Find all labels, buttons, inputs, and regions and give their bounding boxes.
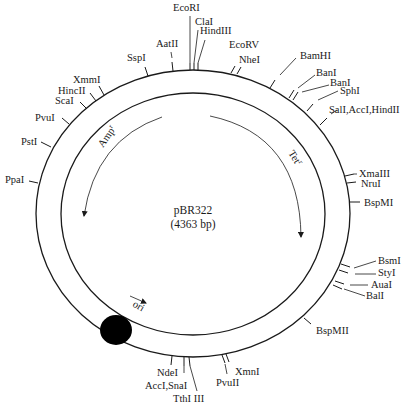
restriction-site: StyI bbox=[339, 267, 396, 278]
site-tick bbox=[41, 142, 51, 147]
restriction-sites: EcoRIClaIHindIIIAatIISspIEcoRVNheIBamHIB… bbox=[5, 2, 401, 404]
site-tick bbox=[293, 92, 298, 100]
restriction-site: PpaI bbox=[5, 174, 38, 185]
site-label: PpaI bbox=[5, 174, 25, 185]
gene-ori: ori bbox=[130, 296, 147, 314]
restriction-site: EcoRI bbox=[173, 2, 200, 70]
site-label: PvuII bbox=[216, 377, 240, 388]
site-label: NheI bbox=[239, 54, 260, 65]
site-tick bbox=[90, 93, 96, 101]
site-tick bbox=[222, 355, 225, 363]
site-tick bbox=[189, 357, 190, 366]
site-tick bbox=[231, 66, 235, 73]
site-label: ScaI bbox=[55, 95, 74, 106]
site-tick bbox=[304, 318, 311, 324]
site-tick bbox=[339, 270, 348, 273]
site-tick bbox=[347, 182, 356, 183]
site-tick bbox=[172, 62, 173, 71]
site-leader-line bbox=[318, 91, 338, 100]
restriction-site: XmnI bbox=[226, 354, 260, 377]
site-label: NruI bbox=[361, 178, 381, 189]
site-label: HindIII bbox=[200, 25, 232, 36]
gene-label: ori bbox=[131, 298, 147, 313]
gene-label: Ampr bbox=[95, 123, 119, 150]
site-leader-line bbox=[298, 75, 315, 88]
site-label: EcoRI bbox=[173, 2, 200, 13]
site-leader-line bbox=[354, 261, 376, 268]
restriction-site: NruI bbox=[347, 178, 381, 189]
site-leader-line bbox=[280, 58, 296, 75]
site-label: NdeI bbox=[157, 367, 178, 378]
site-label: SspI bbox=[127, 52, 146, 63]
site-label: XmmI bbox=[73, 74, 101, 85]
site-tick bbox=[335, 281, 344, 284]
plasmid-size: (4363 bp) bbox=[170, 218, 215, 231]
site-tick bbox=[341, 264, 350, 267]
site-tick bbox=[289, 90, 294, 98]
restriction-site: SspI bbox=[127, 52, 148, 76]
site-label: SphI bbox=[340, 85, 360, 96]
gene-label: Tetr bbox=[286, 148, 305, 168]
restriction-site: AuaI bbox=[335, 279, 392, 290]
restriction-site: ScaI bbox=[55, 95, 87, 109]
site-label: EcoRV bbox=[229, 39, 259, 50]
restriction-site: PstI bbox=[21, 136, 51, 147]
restriction-site: SalI,AccI,HindII bbox=[320, 104, 400, 125]
site-tick bbox=[307, 104, 313, 111]
ori-region-marker bbox=[100, 315, 132, 345]
site-label: SalI,AccI,HindII bbox=[329, 104, 400, 115]
site-tick bbox=[320, 118, 327, 125]
restriction-site: HindIII bbox=[198, 25, 232, 70]
site-tick bbox=[99, 86, 104, 95]
site-leader-line bbox=[194, 30, 198, 63]
site-leader-line bbox=[302, 85, 329, 92]
site-label: StyI bbox=[378, 267, 396, 278]
site-tick bbox=[145, 67, 148, 76]
site-label: TthI III bbox=[173, 393, 205, 404]
site-tick bbox=[80, 102, 87, 109]
gene-arrow bbox=[210, 116, 301, 237]
restriction-site: PvuI bbox=[35, 112, 69, 124]
restriction-site: BspMI bbox=[350, 197, 394, 208]
restriction-site: NheI bbox=[237, 54, 260, 74]
site-tick bbox=[171, 356, 172, 365]
site-label: BspMII bbox=[316, 325, 349, 336]
site-label: XmnI bbox=[235, 366, 260, 377]
site-leader-line bbox=[171, 52, 172, 58]
restriction-site: NdeI bbox=[157, 356, 178, 378]
site-label: PstI bbox=[21, 136, 38, 147]
site-leader-line bbox=[344, 289, 365, 296]
site-leader-line bbox=[225, 364, 227, 374]
site-label: AccI,SnaI bbox=[145, 380, 188, 391]
site-tick bbox=[62, 118, 69, 124]
gene-tet: Tetr bbox=[210, 116, 305, 237]
site-tick bbox=[237, 67, 241, 74]
site-label: BsmI bbox=[378, 255, 401, 266]
site-tick bbox=[345, 174, 354, 176]
plasmid-name: pBR322 bbox=[174, 204, 213, 217]
site-tick bbox=[29, 181, 38, 183]
site-leader-line bbox=[198, 40, 205, 63]
site-label: BspMI bbox=[364, 197, 394, 208]
site-label: AatII bbox=[156, 38, 179, 49]
site-leader-line bbox=[190, 366, 197, 391]
site-label: AuaI bbox=[371, 279, 392, 290]
restriction-site: AatII bbox=[156, 38, 179, 71]
site-tick bbox=[226, 354, 229, 362]
site-label: PvuI bbox=[35, 112, 55, 123]
site-label: BamHI bbox=[300, 50, 331, 61]
site-tick bbox=[270, 80, 275, 88]
site-label: BalI bbox=[366, 290, 385, 301]
site-tick bbox=[333, 285, 342, 289]
plasmid-map: EcoRIClaIHindIIIAatIISspIEcoRVNheIBamHIB… bbox=[0, 0, 406, 406]
restriction-site: BspMII bbox=[304, 318, 349, 336]
